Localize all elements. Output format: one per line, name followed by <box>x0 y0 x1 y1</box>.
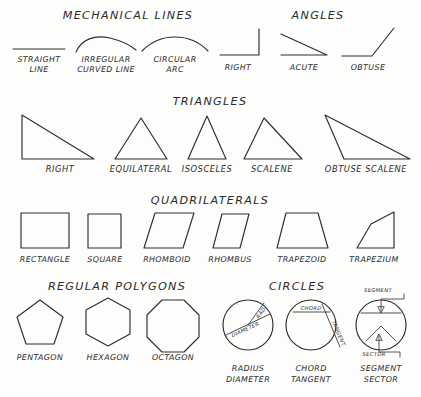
figure-acute-angle <box>281 34 327 55</box>
figure-square <box>88 214 121 248</box>
caption-trapezium: TRAPEZIUM <box>349 255 398 264</box>
caption-equilateral-triangle: EQUILATERAL <box>110 164 172 174</box>
figure-hexagon <box>86 298 130 346</box>
caption-rectangle: RECTANGLE <box>20 255 70 264</box>
figure-trapezoid <box>277 213 328 248</box>
figure-right-angle <box>220 29 259 55</box>
figure-obtuse-scalene-triangle <box>325 115 410 159</box>
figure-right-triangle <box>22 115 94 159</box>
figure-pentagon <box>17 300 63 344</box>
section-heading-regular-polygons: REGULAR POLYGONS <box>48 280 186 293</box>
figure-octagon <box>147 300 199 352</box>
figure-circular-arc <box>142 37 208 51</box>
caption-straight-line-2: LINE <box>29 65 48 74</box>
geometry-reference-sheet: MECHANICAL LINES ANGLES TRIANGLES QUADRI… <box>0 0 421 397</box>
caption-scalene-triangle: SCALENE <box>251 164 293 174</box>
caption-pentagon: PENTAGON <box>17 353 64 362</box>
figure-trapezium <box>357 212 394 248</box>
caption-obtuse-scalene-triangle: OBTUSE SCALENE <box>325 164 407 174</box>
section-heading-angles: ANGLES <box>291 9 345 22</box>
annotation-tangent: TANGENT <box>331 320 347 348</box>
caption-acute-angle: ACUTE <box>289 63 319 72</box>
section-heading-mechanical-lines: MECHANICAL LINES <box>63 9 193 22</box>
figure-equilateral-triangle <box>115 118 167 159</box>
caption-octagon: OCTAGON <box>152 353 194 362</box>
caption-irregular-curved-line-1: IRREGULAR <box>81 55 130 64</box>
caption-chord-tangent-1: CHORD <box>295 364 326 373</box>
caption-square: SQUARE <box>87 255 122 264</box>
caption-right-angle: RIGHT <box>225 63 252 72</box>
section-heading-quadrilaterals: QUADRILATERALS <box>151 194 269 207</box>
figure-rhomboid <box>144 213 194 248</box>
figure-isosceles-triangle <box>188 116 226 159</box>
caption-rhomboid: RHOMBOID <box>143 255 191 264</box>
figure-obtuse-angle <box>342 28 394 56</box>
caption-segment-sector-2: SECTOR <box>364 375 398 384</box>
caption-straight-line-1: STRAIGHT <box>17 55 61 64</box>
caption-segment-sector-1: SEGMENT <box>360 364 402 373</box>
caption-chord-tangent-2: TANGENT <box>291 375 332 384</box>
leader-line-segment <box>378 294 404 313</box>
caption-circular-arc-2: ARC <box>165 65 184 74</box>
caption-circular-arc-1: CIRCULAR <box>153 55 196 64</box>
caption-hexagon: HEXAGON <box>87 353 130 362</box>
caption-isosceles-triangle: ISOSCELES <box>182 164 233 174</box>
caption-radius-diameter-1: RADIUS <box>232 364 264 373</box>
annotation-diameter: DIAMETER <box>230 320 260 338</box>
annotation-radius: RAD. <box>255 304 268 319</box>
caption-radius-diameter-2: DIAMETER <box>226 375 270 384</box>
caption-right-triangle: RIGHT <box>46 164 75 174</box>
figure-irregular-curved-line <box>76 37 136 52</box>
caption-obtuse-angle: OBTUSE <box>351 63 386 72</box>
section-heading-triangles: TRIANGLES <box>173 95 248 108</box>
figure-rhombus <box>213 214 249 248</box>
section-heading-circles: CIRCLES <box>269 280 325 293</box>
figure-rectangle <box>21 213 69 248</box>
caption-irregular-curved-line-2: CURVED LINE <box>77 65 135 74</box>
caption-rhombus: RHOMBUS <box>208 255 251 264</box>
annotation-segment: SEGMENT <box>364 287 392 293</box>
annotation-sector: SECTOR <box>362 351 385 357</box>
figure-scalene-triangle <box>244 118 302 159</box>
annotation-chord: CHORD <box>300 305 321 311</box>
caption-trapezoid: TRAPEZOID <box>277 255 326 264</box>
